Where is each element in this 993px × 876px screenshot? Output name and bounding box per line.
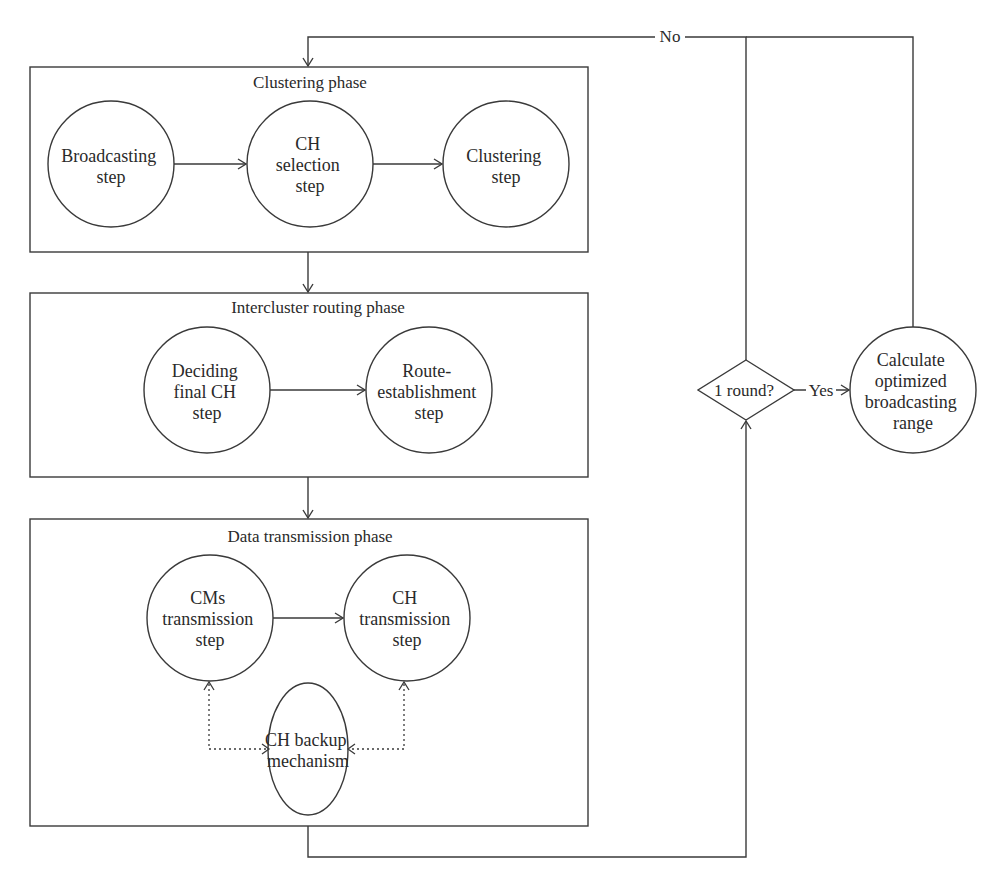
clustering-phase-title: Clustering phase xyxy=(253,73,367,92)
data-transmission-phase-box: Data transmission phase CMs transmission… xyxy=(30,519,588,826)
backup-to-ch-dotted-link xyxy=(349,684,404,749)
ch-backup-mechanism-label: CH backup mechanism xyxy=(265,730,351,771)
clustering-phase-box: Clustering phase Broadcasting step CH se… xyxy=(30,67,588,252)
intercluster-routing-phase-title: Intercluster routing phase xyxy=(231,298,405,317)
yes-label: Yes xyxy=(809,381,834,400)
intercluster-routing-phase-box: Intercluster routing phase Deciding fina… xyxy=(30,293,588,477)
backup-to-cms-dotted-link xyxy=(209,684,268,749)
calculate-broadcasting-range-node: Calculate optimized broadcasting range xyxy=(850,327,976,453)
decision-label: 1 round? xyxy=(714,381,774,400)
no-label: No xyxy=(660,27,681,46)
round-decision: 1 round? xyxy=(698,360,794,420)
data-transmission-phase-title: Data transmission phase xyxy=(227,527,392,546)
flowchart-canvas: No Clustering phase Broadcasting step CH… xyxy=(0,0,993,876)
